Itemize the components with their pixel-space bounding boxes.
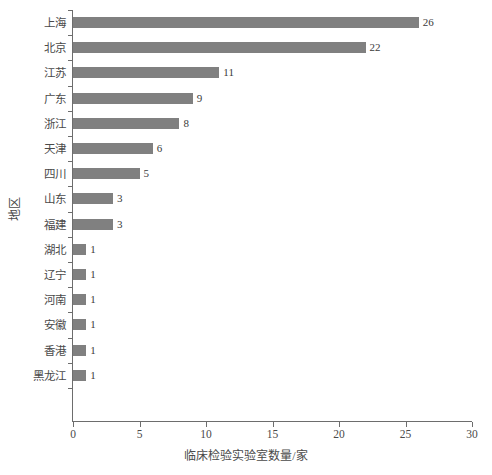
bar-value-label: 3 <box>117 214 123 234</box>
bar-row: 浙江8 <box>0 111 492 136</box>
y-tick-mark <box>68 212 73 213</box>
y-tick-label: 上海 <box>4 14 66 30</box>
x-tick-label: 25 <box>391 428 421 440</box>
bar-row: 辽宁1 <box>0 262 492 287</box>
x-tick-label: 5 <box>125 428 155 440</box>
bar-value-label: 5 <box>144 163 150 183</box>
y-tick-label: 安徽 <box>4 316 66 332</box>
y-tick-mark <box>68 136 73 137</box>
bar <box>73 67 219 78</box>
y-tick-label: 黑龙江 <box>4 367 66 383</box>
bar-value-label: 3 <box>117 188 123 208</box>
bar <box>73 269 86 280</box>
bar <box>73 219 113 230</box>
x-tick-mark <box>339 422 340 427</box>
y-tick-mark <box>68 86 73 87</box>
bar-value-label: 1 <box>90 289 96 309</box>
bar <box>73 244 86 255</box>
bar-row: 江苏11 <box>0 60 492 85</box>
bar-value-label: 8 <box>183 113 189 133</box>
bar-value-label: 26 <box>423 12 434 32</box>
bar-row: 安徽1 <box>0 312 492 337</box>
bar-row: 河南1 <box>0 287 492 312</box>
bar-value-label: 9 <box>197 88 203 108</box>
bar-value-label: 22 <box>370 37 381 57</box>
x-tick-label: 0 <box>58 428 88 440</box>
x-tick-mark <box>406 422 407 427</box>
bar <box>73 42 366 53</box>
bar <box>73 193 113 204</box>
y-tick-label: 香港 <box>4 342 66 358</box>
x-tick-label: 10 <box>191 428 221 440</box>
y-tick-label: 浙江 <box>4 115 66 131</box>
y-tick-mark <box>68 363 73 364</box>
x-tick-label: 20 <box>324 428 354 440</box>
bar-row: 四川5 <box>0 161 492 186</box>
bar-row: 黑龙江1 <box>0 363 492 388</box>
y-tick-mark <box>68 237 73 238</box>
y-tick-label: 广东 <box>4 90 66 106</box>
bar-chart-figure: 地区 临床检验实验室数量/家 上海26北京22江苏11广东9浙江8天津6四川5山… <box>0 0 492 475</box>
y-tick-mark <box>68 60 73 61</box>
bar-row: 天津6 <box>0 136 492 161</box>
bar <box>73 345 86 356</box>
bar <box>73 143 153 154</box>
bar <box>73 319 86 330</box>
bar-value-label: 1 <box>90 264 96 284</box>
y-tick-label: 辽宁 <box>4 266 66 282</box>
y-tick-label: 福建 <box>4 216 66 232</box>
bar <box>73 294 86 305</box>
y-tick-label: 四川 <box>4 165 66 181</box>
y-tick-mark <box>68 287 73 288</box>
bar <box>73 118 179 129</box>
y-tick-label: 北京 <box>4 39 66 55</box>
x-tick-mark <box>273 422 274 427</box>
bar-row: 福建3 <box>0 212 492 237</box>
bar <box>73 17 419 28</box>
y-tick-mark <box>68 388 73 389</box>
x-tick-mark <box>472 422 473 427</box>
x-tick-mark <box>73 422 74 427</box>
bar <box>73 93 193 104</box>
y-tick-label: 湖北 <box>4 241 66 257</box>
bar-row: 北京22 <box>0 35 492 60</box>
y-tick-label: 河南 <box>4 291 66 307</box>
figure-caption <box>0 467 492 475</box>
bar-row: 上海26 <box>0 10 492 35</box>
bar-value-label: 1 <box>90 365 96 385</box>
bar-value-label: 11 <box>223 62 234 82</box>
bar-value-label: 6 <box>157 138 163 158</box>
bar <box>73 370 86 381</box>
bar-row: 湖北1 <box>0 237 492 262</box>
bar-row: 山东3 <box>0 186 492 211</box>
x-tick-label: 30 <box>457 428 487 440</box>
y-tick-mark <box>68 338 73 339</box>
y-tick-mark <box>68 35 73 36</box>
x-tick-mark <box>206 422 207 427</box>
y-tick-mark <box>68 312 73 313</box>
bar-value-label: 1 <box>90 340 96 360</box>
y-tick-mark <box>68 186 73 187</box>
y-tick-label: 山东 <box>4 190 66 206</box>
x-tick-mark <box>140 422 141 427</box>
bar <box>73 168 140 179</box>
bar-value-label: 1 <box>90 314 96 334</box>
y-tick-label: 江苏 <box>4 64 66 80</box>
bar-value-label: 1 <box>90 239 96 259</box>
bar-row: 香港1 <box>0 338 492 363</box>
y-tick-label: 天津 <box>4 140 66 156</box>
y-tick-mark <box>68 10 73 11</box>
y-tick-mark <box>68 161 73 162</box>
y-tick-mark <box>68 111 73 112</box>
x-axis-title: 临床检验实验室数量/家 <box>0 446 492 464</box>
bar-row: 广东9 <box>0 86 492 111</box>
x-tick-label: 15 <box>258 428 288 440</box>
y-tick-mark <box>68 262 73 263</box>
